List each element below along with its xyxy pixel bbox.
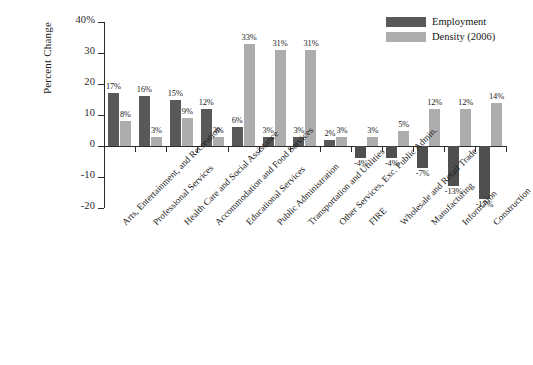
legend-swatch-employment <box>386 17 426 27</box>
bar-value-label: 6% <box>232 116 243 125</box>
bar-value-label: 17% <box>106 82 121 91</box>
y-axis-tick-label: 40% <box>75 14 95 25</box>
bar-value-label: 8% <box>120 110 131 119</box>
bar-value-label: 5% <box>398 120 409 129</box>
x-axis-category-label: FIRE <box>367 206 388 227</box>
x-axis-tick-mark <box>228 146 229 152</box>
bar-employment <box>232 127 243 146</box>
y-axis-tick-label: 0 <box>90 138 95 149</box>
x-axis-tick-mark <box>135 146 136 152</box>
bar-value-label: 31% <box>303 39 318 48</box>
x-axis-tick-mark <box>444 146 445 152</box>
y-axis-tick-label: 20 <box>84 76 95 87</box>
bar-group: 17%8% <box>104 22 135 208</box>
bar-value-label: 12% <box>199 98 214 107</box>
bar-density <box>460 109 471 146</box>
bar-value-label: 33% <box>242 33 257 42</box>
bar-value-label: 14% <box>489 92 504 101</box>
figure-caption <box>62 352 482 364</box>
bar-employment <box>355 146 366 158</box>
x-axis-tick-mark <box>351 146 352 152</box>
bar-value-label: 3% <box>336 126 347 135</box>
x-axis-tick-mark <box>320 146 321 152</box>
bar-density <box>120 121 131 146</box>
x-axis-tick-mark <box>166 146 167 152</box>
x-axis-tick-mark <box>197 146 198 152</box>
bar-density <box>491 103 502 146</box>
bar-employment <box>139 96 150 146</box>
legend-swatch-density <box>386 32 426 42</box>
bar-density <box>398 131 409 147</box>
chart-legend: Employment Density (2006) <box>386 16 495 46</box>
bar-value-label: 12% <box>427 98 442 107</box>
bar-value-label: 16% <box>137 85 152 94</box>
y-axis-tick-label: -20 <box>81 200 95 211</box>
x-axis-tick-mark <box>413 146 414 152</box>
bar-value-label: -7% <box>416 169 430 178</box>
legend-item-density: Density (2006) <box>386 31 495 42</box>
x-axis-tick-mark <box>475 146 476 152</box>
bar-employment <box>386 146 397 158</box>
bar-employment <box>108 93 119 146</box>
bar-employment <box>170 100 181 147</box>
bar-value-label: 3% <box>151 126 162 135</box>
bar-group: -17%14% <box>475 22 506 208</box>
bar-value-label: 12% <box>458 98 473 107</box>
x-axis-tick-mark <box>382 146 383 152</box>
y-axis-tick-label: 30 <box>84 45 95 56</box>
bar-density <box>336 137 347 146</box>
y-axis-tick-mark <box>98 208 104 209</box>
bar-density <box>244 44 255 146</box>
y-axis-tick-label: 10 <box>84 107 95 118</box>
x-axis-tick-mark <box>290 146 291 152</box>
bar-value-label: 31% <box>273 39 288 48</box>
x-axis-tick-mark <box>259 146 260 152</box>
bar-employment <box>324 140 335 146</box>
bar-density <box>367 137 378 146</box>
x-axis-tick-mark <box>506 146 507 152</box>
y-axis-tick-label: -10 <box>81 169 95 180</box>
bar-density <box>182 118 193 146</box>
y-axis-title: Percent Change <box>41 0 53 123</box>
bar-value-label: 9% <box>182 107 193 116</box>
legend-label-density: Density (2006) <box>432 31 495 42</box>
legend-label-employment: Employment <box>432 16 486 27</box>
bar-value-label: 2% <box>324 129 335 138</box>
legend-item-employment: Employment <box>386 16 495 27</box>
bar-value-label: 15% <box>168 89 183 98</box>
bar-density <box>151 137 162 146</box>
bar-value-label: 3% <box>367 126 378 135</box>
